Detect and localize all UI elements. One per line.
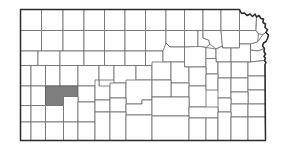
county-shape	[136, 66, 152, 81]
county-shape	[21, 66, 32, 87]
county-shape	[99, 66, 114, 81]
county-shape	[31, 122, 46, 141]
county-shape	[84, 31, 105, 52]
county-shape	[248, 76, 265, 90]
county-shape	[231, 62, 248, 78]
county-shape	[221, 10, 240, 31]
county-shape	[21, 106, 32, 123]
county-shape	[218, 98, 231, 112]
county-shape	[84, 10, 105, 31]
county-shape	[218, 62, 231, 78]
county-shape	[42, 31, 64, 52]
county-shape	[171, 83, 189, 97]
county-shape	[110, 112, 126, 141]
map-svg-canvas	[0, 0, 286, 155]
county-shape	[189, 107, 218, 118]
county-shape	[95, 80, 110, 100]
county-shape	[21, 10, 42, 31]
county-shape	[46, 106, 64, 123]
county-shape	[152, 116, 189, 141]
county-shape	[125, 10, 146, 31]
county-shape	[152, 62, 171, 80]
county-shape	[64, 122, 79, 141]
county-shape	[21, 86, 32, 106]
county-shape	[231, 117, 248, 141]
county-shape	[206, 48, 216, 59]
county-shape	[189, 67, 206, 86]
county-shape	[21, 122, 32, 141]
county-shape	[110, 98, 126, 112]
county-shape	[216, 46, 231, 62]
county-shape	[189, 118, 206, 141]
county-shape	[221, 31, 240, 49]
county-shape	[46, 66, 61, 87]
county-shape	[105, 31, 126, 52]
county-shape	[240, 31, 259, 45]
county-shape	[248, 61, 266, 77]
county-shape	[84, 51, 105, 66]
county-shape	[60, 66, 78, 87]
county-shape	[110, 83, 126, 98]
county-shape	[185, 47, 207, 68]
county-shape	[231, 92, 248, 104]
county-shape	[63, 10, 84, 31]
county-shape	[248, 117, 266, 141]
county-shape	[218, 78, 231, 98]
county-shape	[218, 112, 231, 141]
county-shape	[152, 80, 171, 97]
county-shape	[125, 51, 146, 66]
county-shape	[64, 97, 79, 123]
county-shape	[185, 31, 199, 48]
county-shape	[206, 74, 218, 90]
county-shape	[206, 59, 218, 75]
county-shape	[42, 10, 64, 31]
county-shape	[146, 10, 167, 31]
county-shape	[152, 97, 189, 116]
county-shape	[125, 31, 146, 52]
county-shape	[166, 31, 185, 48]
county-shape	[95, 112, 110, 141]
county-shape	[185, 10, 204, 31]
county-shape	[38, 51, 60, 66]
county-shape	[78, 86, 95, 102]
county-shape	[248, 104, 265, 117]
county-shape	[189, 86, 206, 107]
county-polygon-layer	[21, 10, 269, 141]
county-shape	[21, 31, 42, 52]
county-shape	[78, 102, 95, 122]
county-shape	[63, 31, 84, 52]
county-shape	[206, 118, 218, 141]
county-shape	[31, 106, 46, 123]
county-shape	[105, 51, 126, 66]
county-shape	[231, 104, 248, 117]
county-shape	[166, 10, 185, 31]
county-shape	[78, 122, 95, 141]
county-shape	[146, 31, 167, 52]
county-shape	[60, 51, 84, 66]
county-shape	[105, 10, 126, 31]
county-shape	[231, 78, 248, 92]
kansas-county-locator-map	[0, 0, 286, 155]
county-shape	[203, 10, 221, 31]
county-shape	[21, 51, 39, 66]
county-shape	[31, 66, 46, 87]
county-shape	[46, 122, 64, 141]
county-shape	[126, 115, 152, 141]
county-shape	[31, 86, 46, 106]
county-shape	[248, 90, 265, 104]
county-shape	[95, 100, 110, 112]
